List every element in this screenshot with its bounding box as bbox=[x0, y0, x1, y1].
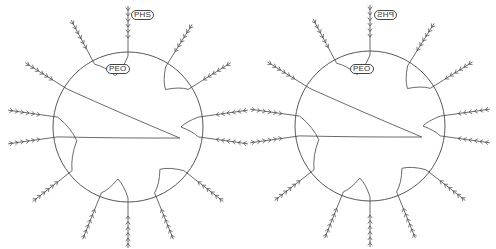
peo-loop bbox=[101, 179, 128, 198]
peo-loop bbox=[300, 88, 422, 137]
micelle-diagram bbox=[0, 0, 496, 249]
peo-loop bbox=[181, 117, 198, 137]
polymer-arm bbox=[408, 23, 434, 65]
polymer-arm bbox=[250, 136, 300, 143]
peo-loop bbox=[343, 178, 370, 197]
polymer-arm bbox=[440, 136, 490, 143]
polymer-arm bbox=[313, 19, 336, 63]
polymer-arm bbox=[430, 62, 472, 88]
polymer-arm bbox=[426, 170, 465, 201]
left-peo-label: PEO bbox=[106, 64, 130, 74]
polymer-arm bbox=[198, 110, 248, 117]
right-phs-label-mirrored: PHS bbox=[374, 10, 397, 20]
mirrored-text: PHS bbox=[377, 11, 394, 19]
peo-loop bbox=[300, 116, 319, 170]
polymer-arm bbox=[440, 109, 490, 116]
peo-loop bbox=[58, 89, 180, 138]
polymer-arm bbox=[397, 192, 416, 238]
right-peo-label: PEO bbox=[350, 64, 374, 74]
left-phs-label: PHS bbox=[131, 10, 154, 20]
polymer-arm bbox=[188, 63, 230, 89]
polymer-arm bbox=[155, 193, 174, 239]
peo-loop bbox=[423, 116, 440, 136]
polymer-arm bbox=[25, 63, 67, 89]
polymer-arm bbox=[8, 110, 58, 117]
polymer-arm bbox=[275, 170, 314, 201]
polymer-arm bbox=[71, 20, 94, 64]
polymer-arm bbox=[33, 171, 72, 202]
peo-loop bbox=[58, 117, 77, 171]
polymer-arm bbox=[83, 193, 102, 239]
polymer-arm bbox=[184, 171, 223, 202]
polymer-arm bbox=[325, 192, 344, 238]
polymer-arm bbox=[250, 109, 300, 116]
polymer-arm bbox=[198, 137, 248, 144]
polymer-arm bbox=[166, 24, 192, 66]
polymer-arm bbox=[8, 137, 58, 144]
polymer-arm bbox=[267, 62, 309, 88]
